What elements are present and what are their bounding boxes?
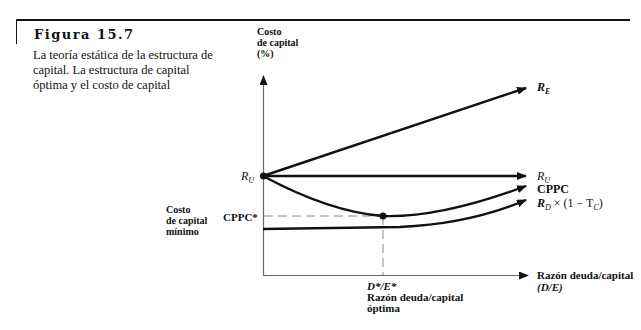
ru-intercept-point: [260, 173, 267, 180]
cppc-minimum-point: [380, 213, 387, 220]
ru-intercept-label: RU: [241, 170, 254, 187]
rd-after-tax-curve: [263, 200, 526, 229]
cppc-curve: [263, 176, 526, 216]
min-cost-label: Costo de capital mínimo: [166, 204, 207, 237]
rd-after-tax-label: RD × (1 − TC): [537, 197, 603, 214]
x-axis-label: Razón deuda/capital (D/E): [537, 269, 633, 293]
optimal-ratio-label: D*/E* Razón deuda/capital óptima: [367, 281, 463, 314]
cppc-label: CPPC: [537, 183, 569, 195]
re-label: RE: [537, 81, 550, 98]
y-axis-label: Costo de capital (%): [257, 26, 298, 59]
cppc-star-label: CPPC*: [223, 211, 258, 223]
re-line: [263, 88, 526, 176]
